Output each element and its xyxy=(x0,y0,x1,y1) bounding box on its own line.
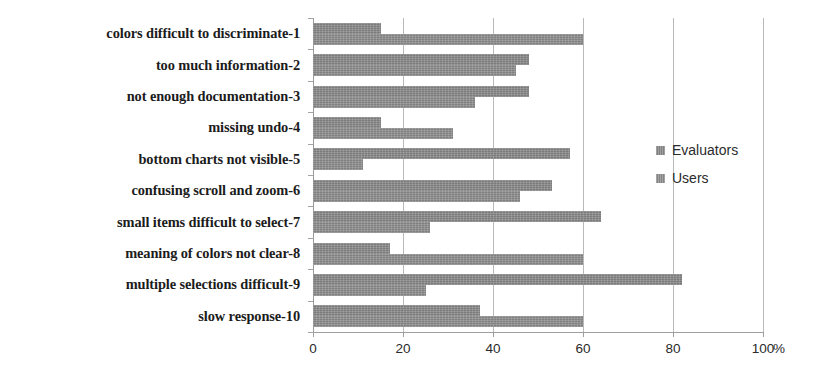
bar-users xyxy=(313,65,516,76)
category-label: slow response-10 xyxy=(0,301,307,332)
x-axis-tick-label: 60 xyxy=(575,341,590,356)
bar-evaluators xyxy=(313,54,529,65)
bar-users xyxy=(313,254,583,265)
category-axis-tick xyxy=(308,18,313,19)
x-axis-tick-label: 100 xyxy=(752,341,775,356)
category-label: confusing scroll and zoom-6 xyxy=(0,175,307,206)
x-axis-tick-labels: 020406080100 xyxy=(0,341,815,363)
x-axis-tick xyxy=(493,332,494,337)
horizontal-bar-chart: colors difficult to discriminate-1too mu… xyxy=(0,0,815,384)
category-axis-tick xyxy=(308,175,313,176)
bar-evaluators xyxy=(313,243,390,254)
x-axis-tick xyxy=(403,332,404,337)
bar-group xyxy=(313,81,763,112)
bar-users xyxy=(313,191,520,202)
category-label: small items difficult to select-7 xyxy=(0,206,307,237)
legend-item: Evaluators xyxy=(656,142,738,158)
bar-evaluators xyxy=(313,86,529,97)
bar-users xyxy=(313,222,430,233)
category-label: multiple selections difficult-9 xyxy=(0,269,307,300)
category-label: too much information-2 xyxy=(0,49,307,80)
x-axis-tick-label: 0 xyxy=(309,341,317,356)
category-axis-tick xyxy=(308,81,313,82)
bar-users xyxy=(313,128,453,139)
bar-evaluators xyxy=(313,117,381,128)
x-axis-tick xyxy=(583,332,584,337)
x-axis-unit-label: % xyxy=(773,341,785,356)
category-axis-tick xyxy=(308,238,313,239)
category-label: meaning of colors not clear-8 xyxy=(0,238,307,269)
legend-label: Evaluators xyxy=(672,142,738,158)
x-axis-tick xyxy=(313,332,314,337)
bar-evaluators xyxy=(313,148,570,159)
category-axis-tick xyxy=(308,332,313,333)
x-axis-baseline xyxy=(313,332,764,333)
x-axis-tick-label: 40 xyxy=(485,341,500,356)
bar-group xyxy=(313,206,763,237)
bar-evaluators xyxy=(313,180,552,191)
category-label: missing undo-4 xyxy=(0,112,307,143)
chart-legend: EvaluatorsUsers xyxy=(656,142,738,186)
category-label: bottom charts not visible-5 xyxy=(0,144,307,175)
category-label: colors difficult to discriminate-1 xyxy=(0,18,307,49)
category-axis-labels: colors difficult to discriminate-1too mu… xyxy=(0,18,307,332)
x-axis-tick-label: 80 xyxy=(665,341,680,356)
bar-users xyxy=(313,34,583,45)
bar-group xyxy=(313,49,763,80)
bar-users xyxy=(313,285,426,296)
bar-evaluators xyxy=(313,274,682,285)
x-axis-tick xyxy=(763,332,764,337)
category-axis-tick xyxy=(308,49,313,50)
category-axis-tick xyxy=(308,144,313,145)
bar-group xyxy=(313,18,763,49)
bar-users xyxy=(313,159,363,170)
category-label: not enough documentation-3 xyxy=(0,81,307,112)
category-axis-tick xyxy=(308,112,313,113)
bar-group xyxy=(313,112,763,143)
bar-evaluators xyxy=(313,23,381,34)
category-axis-tick xyxy=(308,206,313,207)
x-axis-tick-label: 20 xyxy=(395,341,410,356)
bar-users xyxy=(313,97,475,108)
bar-group xyxy=(313,269,763,300)
bar-group xyxy=(313,301,763,332)
legend-item: Users xyxy=(656,170,738,186)
category-axis-tick xyxy=(308,301,313,302)
x-axis-tick xyxy=(673,332,674,337)
legend-swatch-icon xyxy=(656,146,665,155)
bar-evaluators xyxy=(313,211,601,222)
bar-group xyxy=(313,238,763,269)
bar-evaluators xyxy=(313,305,480,316)
bar-users xyxy=(313,316,583,327)
legend-swatch-icon xyxy=(656,174,665,183)
category-axis-tick xyxy=(308,269,313,270)
legend-label: Users xyxy=(672,170,709,186)
gridline xyxy=(763,18,764,332)
